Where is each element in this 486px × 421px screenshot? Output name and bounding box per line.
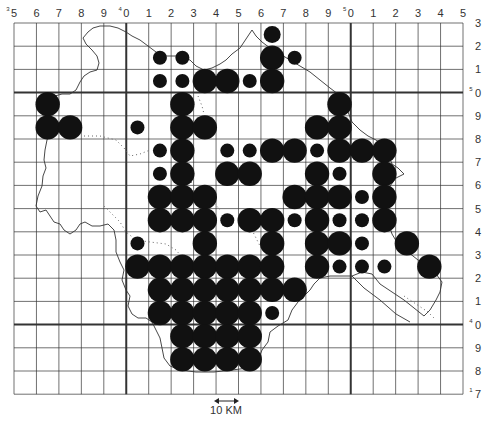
record-dot-large xyxy=(170,92,194,116)
record-dot-large xyxy=(305,231,329,255)
row-label-prefix: 1 xyxy=(469,387,473,393)
record-dot-small xyxy=(355,190,369,204)
record-dot-large xyxy=(327,115,351,139)
record-dot-large xyxy=(327,231,351,255)
record-dot-small xyxy=(333,167,347,181)
record-dot-medium xyxy=(264,26,281,43)
record-dot-large xyxy=(215,324,239,348)
row-label-prefix: 5 xyxy=(469,86,473,92)
record-dot-small xyxy=(355,213,369,227)
record-dot-large xyxy=(372,208,396,232)
record-dot-small xyxy=(175,51,189,65)
record-dot-large xyxy=(305,208,329,232)
record-dot-large xyxy=(170,185,194,209)
record-dot-large xyxy=(305,185,329,209)
record-dot-large xyxy=(260,254,284,278)
record-dot-large xyxy=(35,115,59,139)
record-dot-large xyxy=(170,254,194,278)
dotted-boundary xyxy=(404,296,434,318)
record-dot-large xyxy=(305,254,329,278)
row-label: 7 xyxy=(475,388,481,400)
row-label: 4 xyxy=(475,226,481,238)
record-dot-small xyxy=(175,74,189,88)
column-label: 1 xyxy=(146,7,152,19)
record-dot-large xyxy=(193,301,217,325)
record-dot-large xyxy=(193,208,217,232)
column-label: 6 xyxy=(258,7,264,19)
record-dot-large xyxy=(170,347,194,371)
row-label: 1 xyxy=(475,295,481,307)
column-label: 9 xyxy=(325,7,331,19)
row-label: 8 xyxy=(475,133,481,145)
record-dot-large xyxy=(193,115,217,139)
record-dot-small xyxy=(220,213,234,227)
record-dot-large xyxy=(58,115,82,139)
record-dot-large xyxy=(282,185,306,209)
row-label: 2 xyxy=(475,272,481,284)
record-dot-small xyxy=(243,144,257,158)
record-dot-large xyxy=(260,208,284,232)
record-dot-large xyxy=(282,138,306,162)
scale-bar: 10 KM xyxy=(210,398,242,416)
record-dot-large xyxy=(282,278,306,302)
record-dot-large xyxy=(238,254,262,278)
distribution-map: 536789041234567890512345 321059876543210… xyxy=(0,0,486,421)
record-dot-large xyxy=(148,208,172,232)
record-dot-large xyxy=(170,301,194,325)
row-label: 9 xyxy=(475,110,481,122)
record-dot-large xyxy=(170,115,194,139)
column-label: 3 xyxy=(415,7,421,19)
record-dot-large xyxy=(417,254,441,278)
record-dot-small xyxy=(153,51,167,65)
column-labels: 536789041234567890512345 xyxy=(6,6,466,19)
record-dot-large xyxy=(260,46,284,70)
record-dot-large xyxy=(327,92,351,116)
record-dot-large xyxy=(125,254,149,278)
record-dot-large xyxy=(238,324,262,348)
record-dot-large xyxy=(35,92,59,116)
record-dot-small xyxy=(288,213,302,227)
column-label: 9 xyxy=(101,7,107,19)
record-dot-large xyxy=(215,254,239,278)
record-dot-large xyxy=(215,162,239,186)
record-dot-large xyxy=(170,162,194,186)
column-label: 7 xyxy=(56,7,62,19)
column-label: 0 xyxy=(123,7,129,19)
record-dot-large xyxy=(327,185,351,209)
column-label-prefix: 3 xyxy=(6,6,10,12)
record-dot-small xyxy=(377,260,391,274)
record-dot-large xyxy=(193,324,217,348)
column-label: 2 xyxy=(393,7,399,19)
column-label: 8 xyxy=(78,7,84,19)
record-dot-large xyxy=(193,185,217,209)
record-dot-large xyxy=(193,231,217,255)
record-dot-large xyxy=(170,324,194,348)
record-dot-large xyxy=(148,185,172,209)
record-dot-large xyxy=(260,69,284,93)
record-dot-small xyxy=(130,120,144,134)
record-dot-large xyxy=(215,301,239,325)
record-dot-small xyxy=(310,144,324,158)
column-label: 3 xyxy=(191,7,197,19)
record-dot-large xyxy=(372,162,396,186)
column-label: 5 xyxy=(235,7,241,19)
row-label: 0 xyxy=(475,87,481,99)
scale-label: 10 KM xyxy=(210,404,242,416)
record-dot-small xyxy=(153,144,167,158)
column-label: 6 xyxy=(33,7,39,19)
record-dot-large xyxy=(193,69,217,93)
row-label: 2 xyxy=(475,40,481,52)
record-dot-large xyxy=(260,278,284,302)
record-dot-large xyxy=(238,208,262,232)
record-dot-large xyxy=(215,278,239,302)
row-label: 0 xyxy=(475,319,481,331)
record-dot-small xyxy=(355,260,369,274)
column-label: 5 xyxy=(460,7,466,19)
record-dot-large xyxy=(148,278,172,302)
row-label: 7 xyxy=(475,156,481,168)
record-dot-small xyxy=(153,167,167,181)
column-label: 0 xyxy=(348,7,354,19)
record-dot-large xyxy=(327,138,351,162)
record-dot-small xyxy=(220,144,234,158)
column-label: 4 xyxy=(437,7,443,19)
